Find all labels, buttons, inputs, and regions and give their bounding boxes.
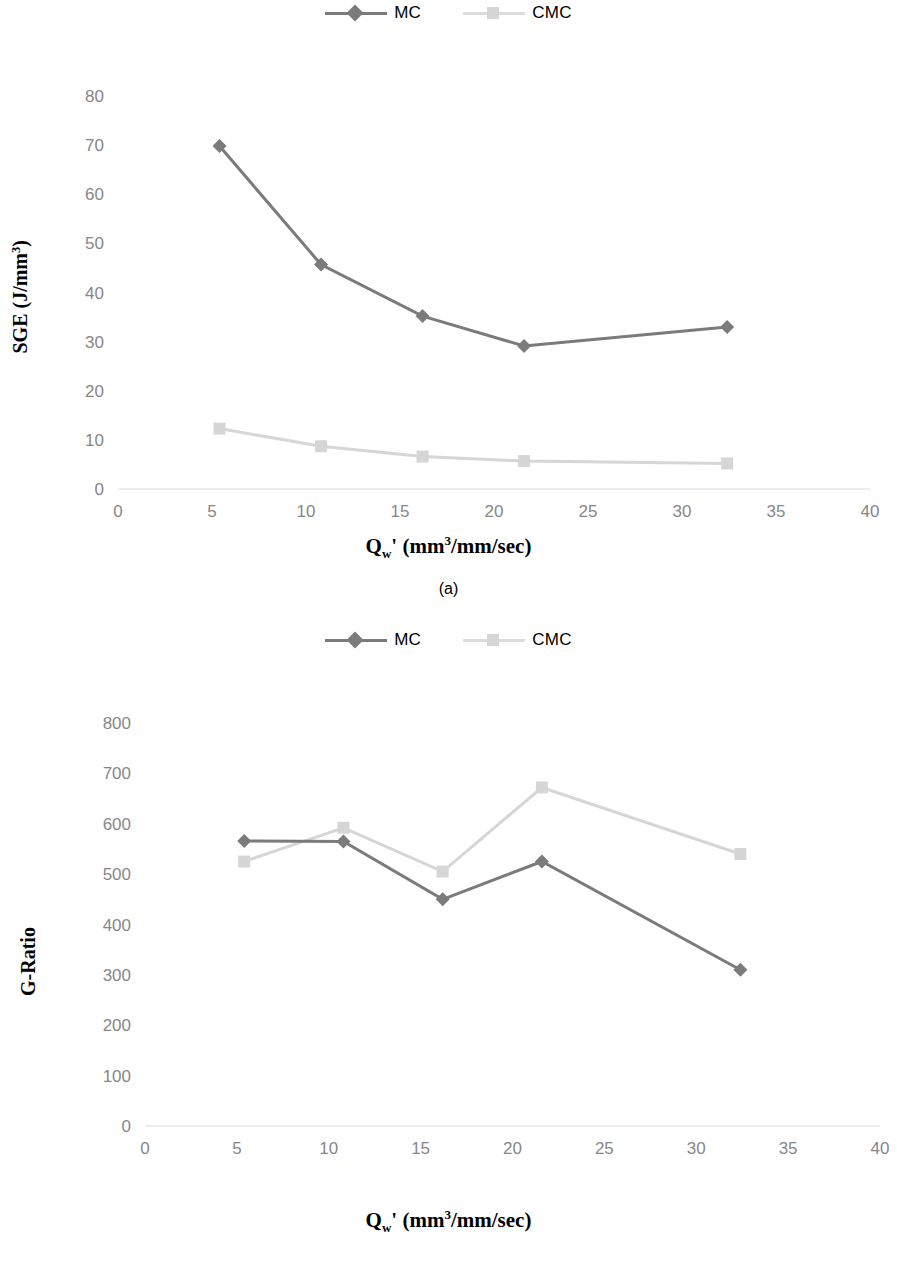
series-cmc [238, 781, 746, 877]
x-tick-label: 0 [140, 1139, 149, 1158]
chart-panel-a: MC CMC SGE (J/mm3) 010203040506070800510… [0, 0, 897, 615]
legend-panel-a: MC CMC [0, 0, 897, 26]
data-point-marker [214, 423, 226, 435]
legend-entry-mc: MC [325, 3, 421, 23]
panel-caption-a: (a) [0, 580, 897, 598]
series-line [244, 788, 740, 872]
figure-two-line-charts: MC CMC SGE (J/mm3) 010203040506070800510… [0, 0, 897, 1275]
y-tick-label: 200 [103, 1016, 131, 1035]
legend-label-mc: MC [394, 3, 421, 23]
series-line [244, 841, 740, 970]
series-mc [237, 834, 747, 977]
legend-swatch-cmc [463, 6, 525, 20]
square-marker-icon [487, 7, 499, 19]
legend-swatch-mc [325, 6, 387, 20]
x-tick-label: 25 [579, 502, 598, 520]
data-point-marker [416, 309, 430, 323]
y-tick-label: 500 [103, 865, 131, 884]
x-tick-label: 10 [297, 502, 316, 520]
data-point-marker [336, 834, 350, 848]
y-tick-label: 0 [122, 1117, 131, 1136]
y-tick-label: 40 [85, 284, 104, 303]
y-tick-label: 700 [103, 764, 131, 783]
legend-swatch-cmc-b [463, 633, 525, 647]
x-tick-label: 10 [319, 1139, 338, 1158]
x-tick-label: 40 [861, 502, 880, 520]
data-point-marker [315, 440, 327, 452]
square-marker-icon [487, 634, 499, 646]
x-axis-label-a: Qw' (mm3/mm/sec) [0, 533, 897, 562]
legend-swatch-mc-b [325, 633, 387, 647]
legend-label-mc-b: MC [394, 630, 421, 650]
data-point-marker [238, 856, 250, 868]
diamond-marker-icon [347, 632, 364, 649]
data-point-marker [436, 892, 450, 906]
x-tick-label: 20 [485, 502, 504, 520]
x-tick-label: 40 [871, 1139, 890, 1158]
series-mc [213, 139, 735, 353]
x-axis-label-b: Qw' (mm3/mm/sec) [0, 1207, 897, 1236]
legend-label-cmc: CMC [532, 3, 572, 23]
diamond-marker-icon [347, 5, 364, 22]
y-tick-label: 400 [103, 916, 131, 935]
data-point-marker [518, 455, 530, 467]
x-tick-label: 20 [503, 1139, 522, 1158]
y-tick-label: 80 [85, 87, 104, 106]
x-tick-label: 30 [687, 1139, 706, 1158]
x-tick-label: 0 [113, 502, 122, 520]
y-tick-label: 30 [85, 333, 104, 352]
data-point-marker [536, 781, 548, 793]
plot-area-b: 0100200300400500600700800051015202530354… [0, 685, 897, 1195]
x-tick-label: 15 [411, 1139, 430, 1158]
data-point-marker [535, 855, 549, 869]
legend-entry-cmc-b: CMC [463, 630, 572, 650]
y-tick-label: 60 [85, 185, 104, 204]
data-point-marker [237, 834, 251, 848]
y-tick-label: 10 [85, 431, 104, 450]
y-tick-label: 20 [85, 382, 104, 401]
data-point-marker [720, 320, 734, 334]
x-tick-label: 35 [767, 502, 786, 520]
data-point-marker [734, 848, 746, 860]
data-point-marker [337, 822, 349, 834]
data-point-marker [417, 451, 429, 463]
legend-entry-mc-b: MC [325, 630, 421, 650]
series-line [220, 146, 728, 346]
data-point-marker [437, 866, 449, 878]
series-line [220, 429, 728, 464]
y-tick-label: 600 [103, 815, 131, 834]
legend-label-cmc-b: CMC [532, 630, 572, 650]
chart-panel-b: MC CMC G-Ratio 0100200300400500600700800… [0, 615, 897, 1275]
y-tick-label: 70 [85, 136, 104, 155]
data-point-marker [733, 963, 747, 977]
y-tick-label: 50 [85, 234, 104, 253]
x-tick-label: 30 [673, 502, 692, 520]
x-tick-label: 25 [595, 1139, 614, 1158]
y-tick-label: 800 [103, 714, 131, 733]
x-tick-label: 15 [391, 502, 410, 520]
legend-entry-cmc: CMC [463, 3, 572, 23]
series-cmc [214, 423, 734, 470]
x-tick-label: 5 [232, 1139, 241, 1158]
x-tick-label: 5 [207, 502, 216, 520]
y-tick-label: 100 [103, 1067, 131, 1086]
legend-panel-b: MC CMC [0, 627, 897, 653]
plot-area-a: 010203040506070800510152025303540 [0, 60, 897, 520]
y-tick-label: 0 [95, 480, 104, 499]
x-tick-label: 35 [779, 1139, 798, 1158]
y-tick-label: 300 [103, 966, 131, 985]
data-point-marker [517, 339, 531, 353]
data-point-marker [721, 457, 733, 469]
